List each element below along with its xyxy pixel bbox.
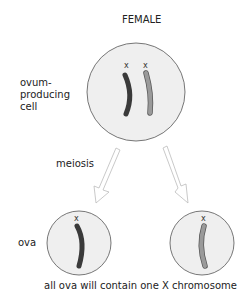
meiosis-diagram: x x x x [0,0,248,302]
x-label-ovum-left: x [74,214,79,223]
x-label-parent-right: x [143,61,148,70]
arrow-right-icon [163,146,188,203]
arrow-left-icon [94,148,120,203]
x-label-ovum-right: x [201,214,206,223]
x-label-parent-left: x [124,61,129,70]
parent-cell [87,43,185,141]
